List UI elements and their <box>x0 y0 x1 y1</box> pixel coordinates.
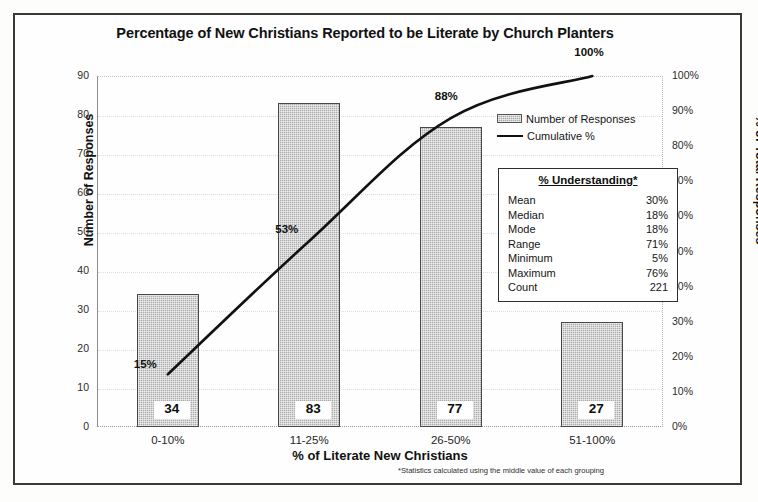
statistics-row: Mean30% <box>508 193 668 208</box>
y-axis-right-title: % of Total Responses <box>753 80 758 280</box>
bar-value-label: 77 <box>437 401 473 419</box>
y-axis-right-tick-label: 100% <box>672 69 716 81</box>
statistics-row: Count221 <box>508 280 668 295</box>
statistics-row-value: 71% <box>646 237 668 252</box>
statistics-row-label: Median <box>508 208 544 223</box>
statistics-row-value: 18% <box>646 208 668 223</box>
statistics-row: Minimum5% <box>508 251 668 266</box>
statistics-box: % Understanding* Mean30%Median18%Mode18%… <box>498 168 678 302</box>
bar <box>420 127 482 427</box>
chart-title: Percentage of New Christians Reported to… <box>60 24 670 43</box>
statistics-row-value: 221 <box>650 280 668 295</box>
y-axis-left-tick-label: 0 <box>53 420 89 432</box>
y-axis-right-tick-label: 70% <box>672 174 716 186</box>
statistics-row-label: Minimum <box>508 251 553 266</box>
statistics-row-label: Mean <box>508 193 536 208</box>
y-axis-right-tick-label: 20% <box>672 350 716 362</box>
legend-line-label: Cumulative % <box>527 130 595 142</box>
y-axis-right-tick-label: 40% <box>672 280 716 292</box>
cumulative-point-label: 53% <box>275 223 298 235</box>
cumulative-point-label: 15% <box>134 358 157 370</box>
y-axis-left-tick-label: 60 <box>53 186 89 198</box>
bar-value-label: 34 <box>154 401 190 419</box>
statistics-row-value: 76% <box>646 266 668 281</box>
y-axis-left-tick-label: 50 <box>53 225 89 237</box>
statistics-row-label: Count <box>508 280 537 295</box>
y-axis-left-tick-label: 80 <box>53 108 89 120</box>
chart-footnote: *Statistics calculated using the middle … <box>398 466 698 475</box>
legend-line-swatch-icon <box>497 135 523 137</box>
x-axis-tick-label: 26-50% <box>381 434 521 446</box>
statistics-title: % Understanding* <box>508 174 668 186</box>
cumulative-point-label: 88% <box>435 90 458 102</box>
statistics-row-value: 30% <box>646 193 668 208</box>
y-axis-left-tick-label: 90 <box>53 69 89 81</box>
statistics-row: Median18% <box>508 208 668 223</box>
x-axis-tick-label: 11-25% <box>239 434 379 446</box>
x-axis-tick-label: 0-10% <box>98 434 238 446</box>
bar-value-label: 27 <box>578 401 614 419</box>
y-axis-left-tick-label: 40 <box>53 264 89 276</box>
chart-page: Percentage of New Christians Reported to… <box>0 0 758 502</box>
y-axis-left-tick-label: 10 <box>53 381 89 393</box>
gridline <box>98 155 662 156</box>
y-axis-right-tick-label: 50% <box>672 245 716 257</box>
statistics-row: Maximum76% <box>508 266 668 281</box>
y-axis-left-tick-label: 70 <box>53 147 89 159</box>
statistics-rows: Mean30%Median18%Mode18%Range71%Minimum5%… <box>508 193 668 295</box>
chart-legend: Number of Responses Cumulative % <box>497 110 635 144</box>
bar <box>278 103 340 427</box>
cumulative-point-label: 100% <box>574 46 603 58</box>
y-axis-right-tick-label: 60% <box>672 209 716 221</box>
y-axis-right-tick-label: 0% <box>672 420 716 432</box>
legend-bar-swatch-icon <box>497 114 522 123</box>
y-axis-right-tick-label: 30% <box>672 315 716 327</box>
statistics-row: Range71% <box>508 237 668 252</box>
statistics-row: Mode18% <box>508 222 668 237</box>
y-axis-right-tick-label: 10% <box>672 385 716 397</box>
x-axis-tick-label: 51-100% <box>522 434 662 446</box>
x-axis-title: % of Literate New Christians <box>97 448 663 463</box>
statistics-row-label: Maximum <box>508 266 556 281</box>
statistics-row-label: Range <box>508 237 540 252</box>
bar-value-label: 83 <box>295 401 331 419</box>
statistics-row-value: 5% <box>652 251 668 266</box>
legend-item-responses: Number of Responses <box>497 110 635 127</box>
legend-bar-label: Number of Responses <box>526 113 635 125</box>
y-axis-right-tick-label: 80% <box>672 139 716 151</box>
y-axis-left-tick-label: 30 <box>53 303 89 315</box>
y-axis-right-tick-label: 90% <box>672 104 716 116</box>
y-axis-left-tick-label: 20 <box>53 342 89 354</box>
legend-item-cumulative: Cumulative % <box>497 127 635 144</box>
statistics-row-label: Mode <box>508 222 536 237</box>
statistics-row-value: 18% <box>646 222 668 237</box>
